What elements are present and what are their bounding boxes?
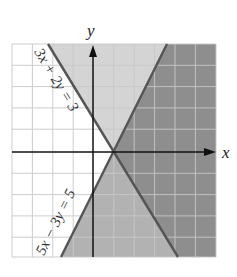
y-axis-label: y: [85, 21, 95, 40]
inequality-graph: x y 3x + 2y = 3 5x − 3y = 5: [0, 0, 237, 277]
x-axis-label: x: [221, 143, 230, 162]
